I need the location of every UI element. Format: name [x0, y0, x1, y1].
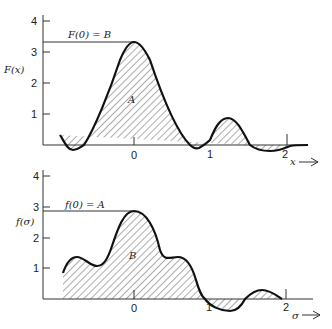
bottom-y-tick-4: 4: [33, 170, 39, 182]
top-annotation: F(0) = B: [67, 29, 111, 40]
top-y-tick-1: 1: [31, 108, 37, 120]
bottom-x-tick-2: 2: [283, 301, 289, 313]
bottom-y-ticks: [43, 176, 50, 268]
top-x-tick-0: 0: [131, 149, 137, 161]
top-y-ticks: [43, 21, 50, 114]
top-plot: 1 2 3 4 0 1 2 F(x) F(0) = B A x: [3, 15, 318, 167]
top-y-tick-4: 4: [31, 15, 37, 27]
bottom-y-tick-3: 3: [33, 201, 39, 213]
top-y-tick-3: 3: [31, 46, 37, 58]
top-shaded-area: [60, 42, 290, 151]
bottom-x-tick-0: 0: [131, 302, 137, 314]
bottom-plot: 1 2 3 4 0 1 2 f(σ) f(0) = A B σ: [15, 170, 320, 321]
bottom-x-arrow-icon: [302, 311, 320, 319]
bottom-annotation: f(0) = A: [64, 199, 105, 210]
top-x-arrow-icon: [299, 158, 318, 166]
bottom-area-label: B: [128, 250, 136, 261]
top-y-tick-2: 2: [31, 77, 37, 89]
diagram: 1 2 3 4 0 1 2 F(x) F(0) = B A x: [0, 0, 332, 329]
top-y-label: F(x): [3, 64, 24, 75]
bottom-y-tick-1: 1: [33, 262, 39, 274]
top-area-label: A: [127, 94, 135, 105]
bottom-y-label: f(σ): [15, 216, 34, 227]
bottom-x-label: σ: [292, 310, 300, 321]
bottom-y-tick-2: 2: [33, 232, 39, 244]
top-x-tick-1: 1: [207, 148, 213, 160]
top-x-label: x: [290, 156, 296, 167]
